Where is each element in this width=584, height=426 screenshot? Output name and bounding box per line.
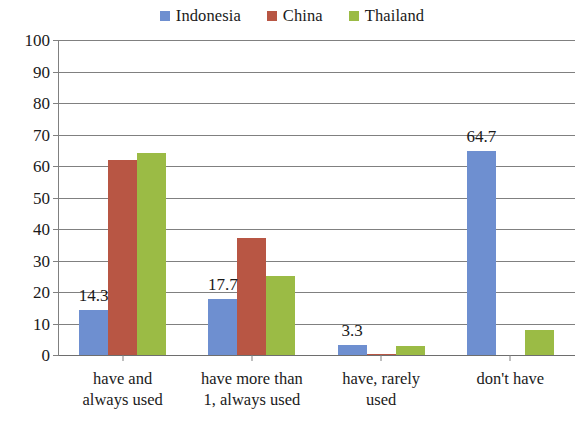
bar-group-bars [187,40,316,355]
x-category-label: have more than1, always used [187,368,316,410]
bar-indonesia[interactable] [467,151,496,355]
legend-label-china: China [283,8,323,25]
y-tick-label: 70 [4,126,50,143]
bar-group [187,40,316,355]
x-category-label-line: have, rarely [319,368,444,389]
x-axis-category-labels: have andalways usedhave more than1, alwa… [58,368,575,410]
bar-group-bars [58,40,187,355]
data-label: 17.7 [208,276,238,293]
bar-indonesia[interactable] [79,310,108,355]
x-tick-mark [251,355,252,361]
bar-group [317,40,446,355]
x-tick-mark [510,355,511,361]
x-category-label-line: have more than [189,368,314,389]
bar-indonesia[interactable] [338,345,367,355]
x-category-label-line: always used [60,389,185,410]
x-category-label-line: have and [60,368,185,389]
bar-thailand[interactable] [396,346,425,355]
bar-group [446,40,575,355]
legend-item-china: China [267,8,323,25]
y-tick-label: 60 [4,158,50,175]
x-category-label-line: used [319,389,444,410]
data-label: 64.7 [467,128,497,145]
legend-swatch-indonesia [160,11,170,21]
x-category-label-line: don't have [448,368,573,389]
y-tick-label: 40 [4,221,50,238]
y-tick-label: 20 [4,284,50,301]
x-tick-mark [122,355,123,361]
x-category-label: have, rarelyused [317,368,446,410]
y-tick-label: 90 [4,63,50,80]
y-tick-label: 80 [4,95,50,112]
y-tick-label: 100 [4,32,50,49]
legend-swatch-thailand [349,11,359,21]
y-tick-mark [53,355,59,356]
legend-swatch-china [267,11,277,21]
data-label: 3.3 [342,322,363,339]
x-category-label: don't have [446,368,575,410]
data-label: 14.3 [79,287,109,304]
bar-group [58,40,187,355]
legend-item-thailand: Thailand [349,8,424,25]
gridline [58,355,575,356]
y-tick-label: 30 [4,252,50,269]
bar-thailand[interactable] [137,153,166,355]
bar-china[interactable] [108,160,137,355]
bar-thailand[interactable] [266,276,295,355]
y-tick-label: 0 [4,347,50,364]
bar-china[interactable] [237,238,266,355]
bar-group-bars [317,40,446,355]
x-tick-mark [381,355,382,361]
legend-label-indonesia: Indonesia [176,8,241,25]
y-tick-label: 10 [4,315,50,332]
legend-item-indonesia: Indonesia [160,8,241,25]
plot-area: 14.317.73.364.7 [58,40,575,355]
bar-chart: Indonesia China Thailand 100908070605040… [0,0,584,426]
legend-label-thailand: Thailand [365,8,424,25]
x-category-label-line: 1, always used [189,389,314,410]
bar-thailand[interactable] [525,330,554,355]
bar-indonesia[interactable] [208,299,237,355]
bar-group-bars [446,40,575,355]
chart-legend: Indonesia China Thailand [0,4,584,28]
y-tick-label: 50 [4,189,50,206]
bar-groups [58,40,575,355]
x-category-label: have andalways used [58,368,187,410]
y-axis-tick-labels: 1009080706050403020100 [0,40,50,355]
